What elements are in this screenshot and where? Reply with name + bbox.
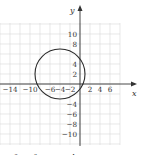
x-tick-label: −2: [65, 85, 76, 94]
x-axis-arrow-icon: [131, 82, 137, 87]
y-tick-label: 4: [72, 60, 77, 69]
x-axis-label: x: [132, 89, 137, 98]
x-tick-label: 6: [108, 85, 113, 94]
y-axis-label: y: [69, 6, 75, 15]
x-tick-label: −10: [22, 85, 38, 94]
y-tick-label: −8: [66, 120, 77, 129]
x-tick-label: 4: [98, 85, 103, 94]
circle-graph: x y −14−10−6−4−224610842−4−6−8−10 x² + y…: [0, 0, 141, 155]
y-tick-label: 2: [72, 70, 77, 79]
y-tick-label: 8: [72, 40, 77, 49]
y-tick-label: −10: [62, 130, 78, 139]
x-tick-label: −14: [2, 85, 18, 94]
y-tick-label: −6: [66, 110, 77, 119]
y-axis-arrow-icon: [78, 5, 83, 11]
x-tick-label: 2: [88, 85, 93, 94]
equation-caption-partial: x² + y² + 8x − 4y − 5 = 0: [10, 153, 114, 155]
y-tick-label: −4: [66, 100, 77, 109]
y-tick-label: 10: [68, 30, 78, 39]
